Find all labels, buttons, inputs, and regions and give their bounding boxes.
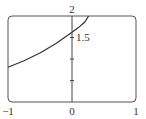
y-label-mid: 1.5 [76, 31, 90, 43]
plot-area: 2 1.5 −1 0 1 [0, 0, 146, 119]
x-label-min: −1 [2, 105, 14, 117]
y-label-top: 2 [69, 3, 75, 15]
x-label-max: 1 [133, 105, 139, 117]
x-label-zero: 0 [69, 105, 75, 117]
